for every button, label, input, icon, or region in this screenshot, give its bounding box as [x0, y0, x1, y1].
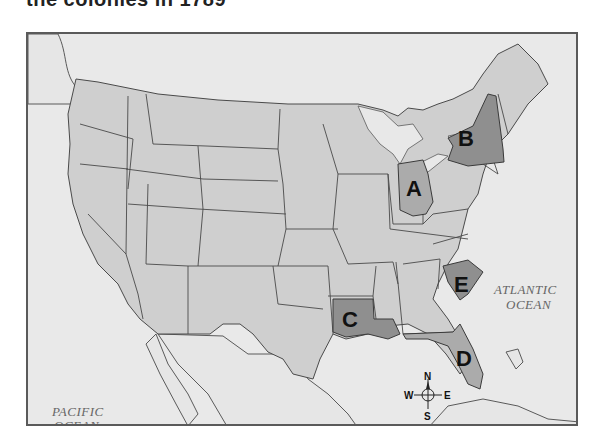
contiguous-us [68, 44, 548, 379]
compass-west: W [404, 390, 414, 401]
label-b: B [458, 126, 474, 151]
compass-south: S [424, 411, 431, 422]
compass-east: E [444, 390, 451, 401]
label-e: E [454, 272, 469, 297]
bahamas [506, 349, 523, 369]
atlantic-ocean-label-line2: OCEAN [506, 297, 552, 312]
us-map-frame: A B C D E ATLANTIC OCEAN PACIFIC OCEAN N… [26, 32, 578, 426]
page-title: the colonies in 1789 [26, 0, 226, 11]
label-d: D [456, 346, 472, 371]
us-map: A B C D E ATLANTIC OCEAN PACIFIC OCEAN N… [28, 34, 578, 426]
compass-north: N [424, 371, 431, 382]
label-a: A [406, 176, 422, 201]
pacific-ocean-label-line1: PACIFIC [51, 404, 104, 419]
label-c: C [342, 307, 358, 332]
pacific-ocean-label-line2: OCEAN [54, 418, 100, 426]
atlantic-ocean-label-line1: ATLANTIC [493, 282, 557, 297]
cuba [428, 399, 578, 426]
